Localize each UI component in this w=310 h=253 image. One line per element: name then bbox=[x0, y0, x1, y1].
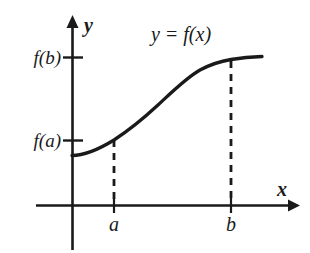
curve-equation-label: y = f(x) bbox=[149, 23, 211, 46]
y-tick-label-fa: f(a) bbox=[34, 130, 61, 152]
x-axis-label: x bbox=[276, 178, 287, 200]
y-tick-label-fb: f(b) bbox=[34, 47, 61, 69]
y-axis-label: y bbox=[82, 14, 93, 37]
figure-container: y x y = f(x) f(b) f(a) a b bbox=[0, 0, 310, 253]
function-graph-figure: y x y = f(x) f(b) f(a) a b bbox=[0, 0, 310, 253]
x-tick-label-b: b bbox=[226, 213, 236, 235]
x-tick-label-a: a bbox=[109, 213, 119, 235]
